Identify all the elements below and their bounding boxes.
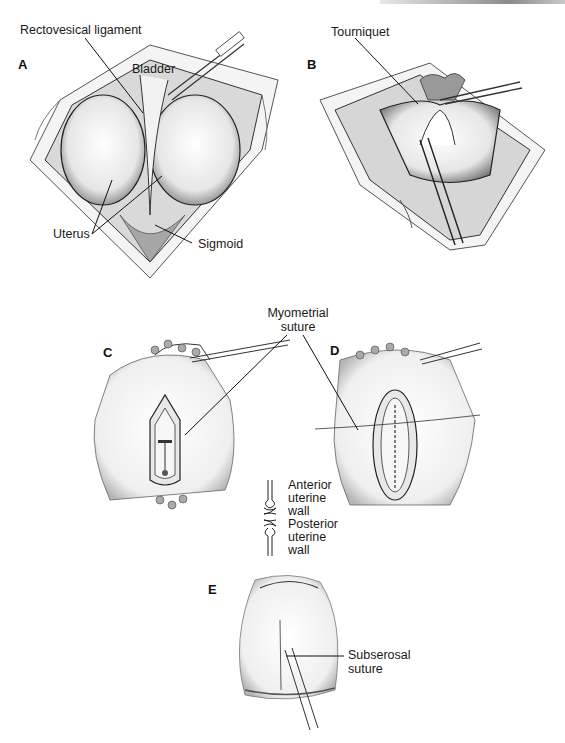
surgical-illustrations — [0, 0, 565, 743]
panel-label-a: A — [18, 57, 27, 72]
panel-label-d: D — [330, 343, 339, 358]
label-subserosal-suture: Subserosal suture — [348, 648, 411, 676]
label-subserosal-line2: suture — [348, 662, 411, 676]
legend-posterior-line3: wall — [288, 543, 310, 557]
panel-label-e: E — [208, 582, 217, 597]
label-tourniquet: Tourniquet — [331, 25, 389, 39]
legend-posterior-line2: uterine — [288, 530, 326, 544]
panel-b-illustration — [320, 63, 545, 250]
legend-anterior-line1: Anterior — [288, 478, 332, 492]
label-rectovesical-ligament: Rectovesical ligament — [20, 23, 142, 37]
panel-label-b: B — [307, 57, 316, 72]
uterine-wall-legend: Anterior uterine wall Posterior uterine … — [270, 476, 330, 560]
label-uterus: Uterus — [53, 227, 90, 241]
panel-label-c: C — [103, 345, 112, 360]
panel-c-illustration — [94, 340, 290, 509]
legend-anterior-line3: wall — [288, 504, 310, 518]
label-bladder: Bladder — [132, 62, 175, 76]
label-myometrial-line1: Myometrial — [262, 306, 334, 320]
legend-anterior-line2: uterine — [288, 491, 326, 505]
panel-d-illustration — [315, 343, 482, 505]
label-myometrial-suture: Myometrial suture — [262, 306, 334, 334]
panel-e-illustration — [239, 575, 337, 730]
label-subserosal-line1: Subserosal — [348, 648, 411, 662]
legend-posterior-line1: Posterior — [288, 517, 338, 531]
label-sigmoid: Sigmoid — [198, 237, 243, 251]
label-myometrial-line2: suture — [262, 320, 334, 334]
